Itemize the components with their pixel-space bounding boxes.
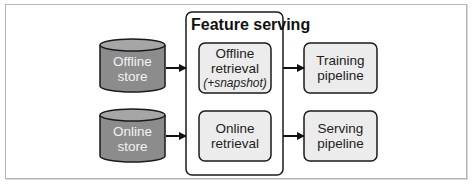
- online-retrieval-line2: retrieval: [211, 136, 259, 151]
- offline-retrieval-line1: Offline: [216, 46, 255, 61]
- offline-store-line1: Offline: [113, 54, 152, 69]
- online-store-label: Online store: [100, 123, 165, 155]
- offline-store-label: Offline store: [100, 53, 165, 85]
- online-store-line1: Online: [113, 124, 152, 139]
- training-pipeline-label: Training pipeline: [304, 43, 377, 93]
- online-retrieval-label: Online retrieval: [199, 111, 271, 161]
- online-store-line2: store: [117, 139, 147, 154]
- feature-serving-title: Feature serving: [191, 16, 310, 34]
- serving-pipeline-label: Serving pipeline: [304, 111, 377, 161]
- offline-retrieval-snapshot-note: (+snapshot): [203, 76, 267, 91]
- serving-pipeline-line1: Serving: [318, 121, 364, 136]
- serving-pipeline-line2: pipeline: [317, 136, 364, 151]
- offline-store-line2: store: [117, 69, 147, 84]
- training-pipeline-line2: pipeline: [317, 68, 364, 83]
- online-retrieval-line1: Online: [215, 121, 254, 136]
- offline-retrieval-line2: retrieval: [211, 61, 259, 76]
- offline-retrieval-label: Offline retrieval (+snapshot): [199, 43, 271, 93]
- training-pipeline-line1: Training: [316, 53, 364, 68]
